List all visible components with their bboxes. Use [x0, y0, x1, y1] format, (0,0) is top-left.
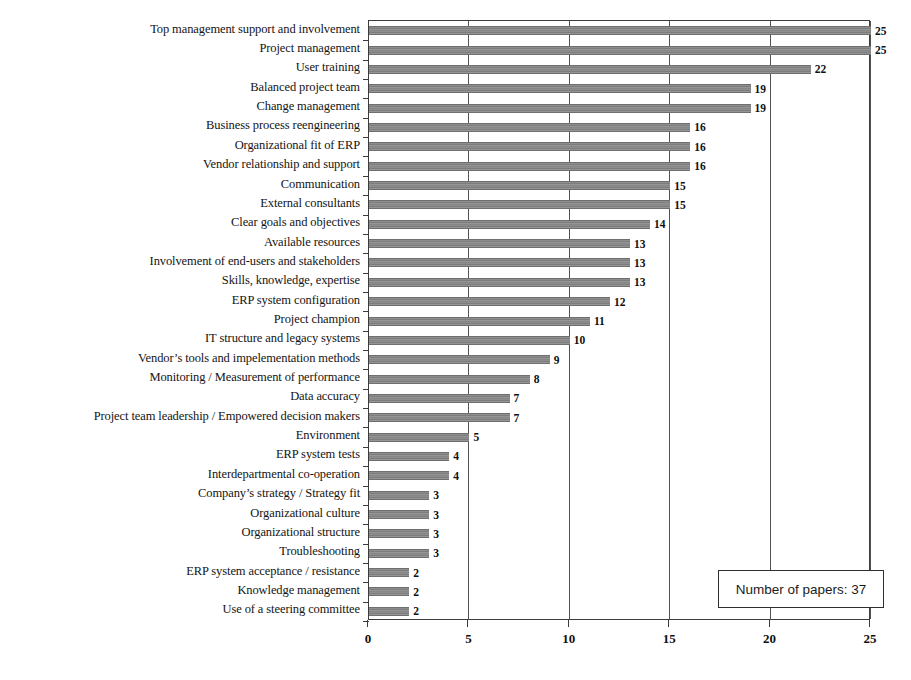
- category-label: External consultants: [260, 197, 360, 210]
- category-tick: [363, 60, 369, 61]
- category-label: Knowledge management: [237, 584, 360, 597]
- bar: [369, 587, 409, 596]
- bar-value-label: 7: [514, 393, 520, 404]
- bar: [369, 529, 429, 538]
- bar: [369, 297, 610, 306]
- bar-value-label: 10: [574, 335, 586, 346]
- category-tick: [363, 292, 369, 293]
- x-axis-tick-label: 5: [465, 631, 472, 646]
- category-label: User training: [296, 61, 360, 74]
- bar: [369, 491, 429, 500]
- category-label: Involvement of end-users and stakeholder…: [150, 255, 360, 268]
- bar-value-label: 9: [554, 355, 560, 366]
- bar: [369, 200, 670, 209]
- bar-value-label: 7: [514, 413, 520, 424]
- bar: [369, 84, 751, 93]
- bar-value-label: 4: [453, 451, 459, 462]
- category-tick: [363, 544, 369, 545]
- category-tick: [363, 466, 369, 467]
- category-tick: [363, 427, 369, 428]
- bar-value-label: 2: [413, 568, 419, 579]
- bar-value-label: 16: [694, 122, 706, 133]
- x-axis-tick: [467, 620, 468, 627]
- bar: [369, 26, 871, 35]
- bar: [369, 568, 409, 577]
- category-tick: [363, 215, 369, 216]
- bar-value-label: 2: [413, 606, 419, 617]
- bar: [369, 336, 570, 345]
- category-tick: [363, 195, 369, 196]
- bar-value-label: 12: [614, 297, 626, 308]
- category-tick: [363, 602, 369, 603]
- plot-area: 2525221919161616151514131313121110987754…: [368, 20, 870, 620]
- bar-value-label: 25: [875, 45, 887, 56]
- category-tick: [363, 273, 369, 274]
- category-label: Communication: [281, 178, 360, 191]
- category-tick: [363, 253, 369, 254]
- category-tick: [363, 137, 369, 138]
- category-label: Top management support and involvement: [150, 23, 360, 36]
- bar: [369, 278, 630, 287]
- category-tick: [363, 176, 369, 177]
- bar: [369, 220, 650, 229]
- bar: [369, 433, 469, 442]
- bar: [369, 317, 590, 326]
- bar: [369, 549, 429, 558]
- bar-value-label: 19: [755, 103, 767, 114]
- gridline: [870, 21, 871, 619]
- bar-value-label: 13: [634, 258, 646, 269]
- category-label: Interdepartmental co-operation: [208, 468, 360, 481]
- bar-value-label: 16: [694, 161, 706, 172]
- bar-value-label: 15: [674, 200, 686, 211]
- bar-value-label: 3: [433, 548, 439, 559]
- category-label: Organizational structure: [241, 526, 360, 539]
- category-tick: [363, 331, 369, 332]
- bar-value-label: 3: [433, 510, 439, 521]
- bar: [369, 46, 871, 55]
- bar: [369, 510, 429, 519]
- category-tick: [363, 118, 369, 119]
- x-axis-tick-label: 10: [562, 631, 575, 646]
- category-label: Clear goals and objectives: [231, 216, 360, 229]
- category-label: Project team leadership / Empowered deci…: [94, 410, 360, 423]
- x-axis-tick: [568, 620, 569, 627]
- bar-value-label: 4: [453, 471, 459, 482]
- bar-value-label: 22: [815, 64, 827, 75]
- category-label: ERP system configuration: [232, 294, 360, 307]
- category-tick: [363, 369, 369, 370]
- x-axis-tick: [869, 620, 870, 627]
- x-axis-tick-label: 0: [365, 631, 372, 646]
- category-label: Business process reengineering: [206, 119, 360, 132]
- bar: [369, 239, 630, 248]
- x-axis-tick-label: 15: [663, 631, 676, 646]
- category-tick: [363, 447, 369, 448]
- bar-value-label: 14: [654, 219, 666, 230]
- category-tick: [363, 389, 369, 390]
- category-tick: [363, 621, 369, 622]
- x-axis-tick: [769, 620, 770, 627]
- category-label: Project management: [259, 42, 360, 55]
- category-tick: [363, 505, 369, 506]
- bar-value-label: 13: [634, 239, 646, 250]
- bar: [369, 452, 449, 461]
- category-label: Change management: [257, 100, 360, 113]
- category-tick: [363, 311, 369, 312]
- bar: [369, 375, 530, 384]
- category-label: Vendor relationship and support: [203, 158, 360, 171]
- bar: [369, 413, 510, 422]
- bar-value-label: 16: [694, 142, 706, 153]
- note-text: Number of papers: 37: [736, 582, 867, 597]
- category-tick: [363, 350, 369, 351]
- category-label: ERP system tests: [276, 448, 360, 461]
- category-tick: [363, 524, 369, 525]
- bar-value-label: 25: [875, 26, 887, 37]
- bar: [369, 607, 409, 616]
- bar: [369, 258, 630, 267]
- bar-chart: Top management support and involvementPr…: [0, 0, 911, 680]
- bar: [369, 181, 670, 190]
- bar: [369, 123, 690, 132]
- bar-value-label: 19: [755, 84, 767, 95]
- category-label: Company’s strategy / Strategy fit: [198, 487, 360, 500]
- category-tick: [363, 79, 369, 80]
- x-axis-tick-label: 20: [763, 631, 776, 646]
